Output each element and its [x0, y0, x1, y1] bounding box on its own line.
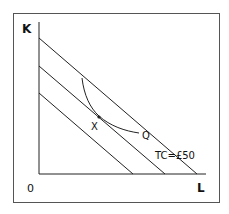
tangency-point-marker: [97, 115, 100, 118]
tangency-point-label: X: [91, 121, 98, 132]
isoquant-label: Q: [142, 130, 150, 141]
isocost-isoquant-diagram: K L 0 X Q TC=£50: [0, 0, 229, 214]
x-axis-label: L: [197, 181, 205, 195]
y-axis-label: K: [22, 22, 32, 36]
isocost-inner: [39, 93, 133, 174]
origin-label: 0: [27, 182, 34, 195]
isocost-middle: [39, 66, 165, 174]
isocost-outer-label: TC=£50: [154, 150, 195, 161]
